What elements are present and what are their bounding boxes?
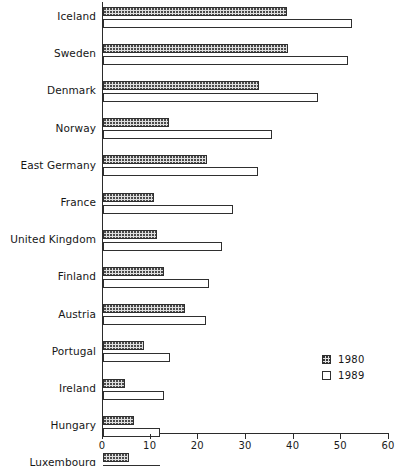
category-label: Portugal — [0, 345, 96, 357]
chart-row: Luxembourg — [0, 448, 396, 466]
bar-1989 — [103, 353, 170, 362]
x-tick-label: 30 — [238, 440, 251, 451]
x-tick — [150, 434, 151, 439]
bar-chart: IcelandSwedenDenmarkNorwayEast GermanyFr… — [0, 0, 396, 466]
bar-1980 — [103, 81, 259, 90]
category-label: France — [0, 196, 96, 208]
legend-item-1989: 1989 — [322, 368, 365, 382]
chart-row: Norway — [0, 114, 396, 151]
category-label: United Kingdom — [0, 233, 96, 245]
bar-1980 — [103, 453, 129, 462]
x-tick — [197, 434, 198, 439]
x-tick — [245, 434, 246, 439]
x-tick — [293, 434, 294, 439]
bar-1989 — [103, 167, 258, 176]
x-tick-label: 50 — [334, 440, 347, 451]
category-label: Norway — [0, 122, 96, 134]
x-tick-label: 60 — [381, 440, 394, 451]
x-tick — [102, 434, 103, 439]
category-label: Finland — [0, 270, 96, 282]
category-label: Sweden — [0, 47, 96, 59]
bar-1989 — [103, 205, 233, 214]
bar-1980 — [103, 44, 288, 53]
bar-1989 — [103, 242, 222, 251]
chart-row: Denmark — [0, 76, 396, 113]
category-label: Austria — [0, 308, 96, 320]
chart-row: France — [0, 188, 396, 225]
bar-1989 — [103, 56, 348, 65]
bar-1980 — [103, 416, 134, 425]
chart-row: Austria — [0, 300, 396, 337]
category-label: Denmark — [0, 84, 96, 96]
bar-1980 — [103, 155, 207, 164]
category-label: Ireland — [0, 382, 96, 394]
bar-1989 — [103, 130, 272, 139]
chart-legend: 1980 1989 — [322, 352, 365, 384]
x-tick — [388, 434, 389, 439]
category-label: East Germany — [0, 159, 96, 171]
x-tick — [340, 434, 341, 439]
category-label: Iceland — [0, 10, 96, 22]
legend-swatch-1989-icon — [322, 371, 331, 380]
bar-1980 — [103, 304, 185, 313]
chart-row: Iceland — [0, 2, 396, 39]
legend-label-1980: 1980 — [338, 354, 365, 365]
bar-1980 — [103, 230, 157, 239]
bar-1989 — [103, 93, 318, 102]
bar-1989 — [103, 19, 352, 28]
chart-row: Sweden — [0, 39, 396, 76]
bar-1989 — [103, 391, 164, 400]
bar-1980 — [103, 267, 164, 276]
bar-1980 — [103, 341, 144, 350]
bar-1980 — [103, 118, 169, 127]
bar-1980 — [103, 193, 154, 202]
chart-row: Finland — [0, 262, 396, 299]
category-label: Luxembourg — [0, 456, 96, 466]
x-tick-label: 10 — [143, 440, 156, 451]
legend-swatch-1980-icon — [322, 355, 331, 364]
legend-label-1989: 1989 — [338, 370, 365, 381]
bar-1989 — [103, 316, 206, 325]
bar-1989 — [103, 428, 160, 437]
bar-1989 — [103, 279, 209, 288]
chart-row: United Kingdom — [0, 225, 396, 262]
category-label: Hungary — [0, 419, 96, 431]
bar-1980 — [103, 7, 287, 16]
legend-item-1980: 1980 — [322, 352, 365, 366]
x-tick-label: 40 — [286, 440, 299, 451]
x-tick-label: 0 — [99, 440, 106, 451]
x-tick-label: 20 — [191, 440, 204, 451]
bar-1980 — [103, 379, 125, 388]
chart-row: East Germany — [0, 151, 396, 188]
